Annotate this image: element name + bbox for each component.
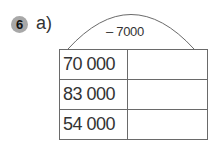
answer-cell[interactable] [128,50,208,80]
input-value: 70 000 [60,50,128,80]
answer-cell[interactable] [128,110,208,140]
table-row: 70 000 [60,50,208,80]
answer-cell[interactable] [128,80,208,110]
input-value: 83 000 [60,80,128,110]
table-row: 83 000 [60,80,208,110]
input-value: 54 000 [60,110,128,140]
operation-label: – 7000 [106,24,144,39]
operation-table: 70 000 83 000 54 000 [59,49,208,140]
table-row: 54 000 [60,110,208,140]
